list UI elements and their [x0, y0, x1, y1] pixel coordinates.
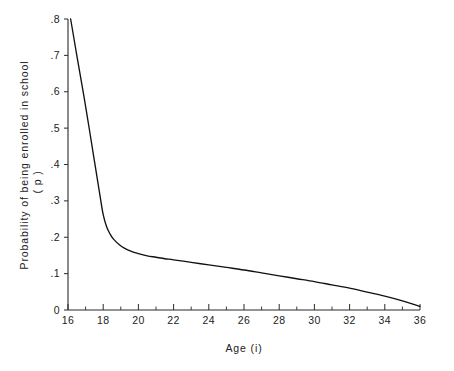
y-tick-label: .3: [50, 194, 60, 206]
x-tick-label: 22: [167, 314, 179, 326]
y-tick-label: .8: [50, 13, 60, 25]
y-axis-title-line1: Probability of being enrolled in school: [18, 60, 30, 269]
x-tick-label: 18: [97, 314, 109, 326]
y-tick-label: .7: [50, 49, 60, 61]
x-axis-tick-labels: 1618202224262830323436: [62, 314, 426, 326]
y-axis-tick-labels: 0.1.2.3.4.5.6.7.8: [50, 13, 60, 316]
y-tick-label: .5: [50, 122, 60, 134]
x-tick-label: 28: [273, 314, 285, 326]
y-tick-label: .4: [50, 158, 60, 170]
x-tick-label: 16: [62, 314, 74, 326]
y-axis-title-line2: ( p ): [31, 170, 43, 193]
x-tick-label: 32: [343, 314, 355, 326]
enrollment-probability-curve: [71, 19, 420, 306]
probability-enrollment-line-chart: 0.1.2.3.4.5.6.7.8 1618202224262830323436…: [0, 0, 454, 371]
x-axis-ticks: [68, 304, 420, 310]
x-tick-label: 30: [308, 314, 320, 326]
y-tick-label: .1: [50, 267, 60, 279]
x-tick-label: 20: [132, 314, 144, 326]
x-tick-label: 36: [414, 314, 426, 326]
axes: [68, 19, 420, 310]
y-axis-ticks: [64, 19, 68, 310]
x-tick-label: 34: [379, 314, 391, 326]
x-tick-label: 26: [238, 314, 250, 326]
y-tick-label: 0: [54, 304, 60, 316]
x-axis-title: Age (i): [225, 342, 262, 354]
chart-figure: 0.1.2.3.4.5.6.7.8 1618202224262830323436…: [0, 0, 454, 371]
y-tick-label: .2: [50, 231, 60, 243]
y-tick-label: .6: [50, 85, 60, 97]
x-tick-label: 24: [203, 314, 215, 326]
